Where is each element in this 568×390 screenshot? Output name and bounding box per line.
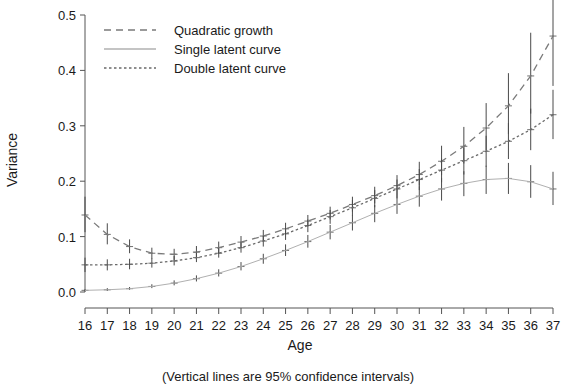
series-line <box>85 178 553 290</box>
y-tick-label: 0.3 <box>58 119 76 134</box>
x-tick-label: 19 <box>145 318 159 333</box>
legend: Quadratic growthSingle latent curveDoubl… <box>104 23 286 76</box>
x-tick-label: 22 <box>211 318 225 333</box>
x-tick-label: 28 <box>345 318 359 333</box>
x-tick-label: 23 <box>234 318 248 333</box>
series-double-latent-curve <box>82 90 557 272</box>
x-tick-group: 1617181920212223242526272829303132333435… <box>78 308 560 333</box>
x-tick-label: 35 <box>501 318 515 333</box>
variance-by-age-chart: 0.00.10.20.30.40.5 161718192021222324252… <box>0 0 568 390</box>
x-axis: 1617181920212223242526272829303132333435… <box>78 308 560 333</box>
x-tick-label: 24 <box>256 318 270 333</box>
x-tick-label: 17 <box>100 318 114 333</box>
x-tick-label: 18 <box>122 318 136 333</box>
series-line <box>85 36 553 254</box>
x-tick-label: 16 <box>78 318 92 333</box>
x-tick-label: 30 <box>390 318 404 333</box>
x-tick-label: 36 <box>523 318 537 333</box>
x-tick-label: 25 <box>278 318 292 333</box>
y-tick-group: 0.00.10.20.30.40.5 <box>58 8 85 300</box>
y-tick-label: 0.5 <box>58 8 76 23</box>
x-tick-label: 37 <box>546 318 560 333</box>
x-axis-title: Age <box>288 337 313 353</box>
chart-svg: 0.00.10.20.30.40.5 161718192021222324252… <box>0 0 568 390</box>
series-single-latent-curve <box>82 163 557 292</box>
x-tick-label: 33 <box>457 318 471 333</box>
x-tick-label: 20 <box>167 318 181 333</box>
error-bars <box>82 90 557 272</box>
x-tick-label: 26 <box>301 318 315 333</box>
y-axis-title: Variance <box>4 133 20 187</box>
y-tick-label: 0.1 <box>58 230 76 245</box>
y-tick-label: 0.2 <box>58 174 76 189</box>
series-line <box>85 115 553 265</box>
x-tick-label: 32 <box>434 318 448 333</box>
error-bars <box>82 163 557 292</box>
chart-caption: (Vertical lines are 95% confidence inter… <box>162 369 414 384</box>
x-tick-label: 34 <box>479 318 493 333</box>
legend-label: Quadratic growth <box>174 23 273 38</box>
series-layer <box>82 0 557 291</box>
legend-label: Single latent curve <box>174 42 281 57</box>
x-tick-label: 27 <box>323 318 337 333</box>
y-tick-label: 0.0 <box>58 285 76 300</box>
x-tick-label: 21 <box>189 318 203 333</box>
legend-label: Double latent curve <box>174 61 286 76</box>
x-tick-label: 31 <box>412 318 426 333</box>
y-axis: 0.00.10.20.30.40.5 <box>58 8 85 300</box>
x-tick-label: 29 <box>367 318 381 333</box>
y-tick-label: 0.4 <box>58 63 76 78</box>
